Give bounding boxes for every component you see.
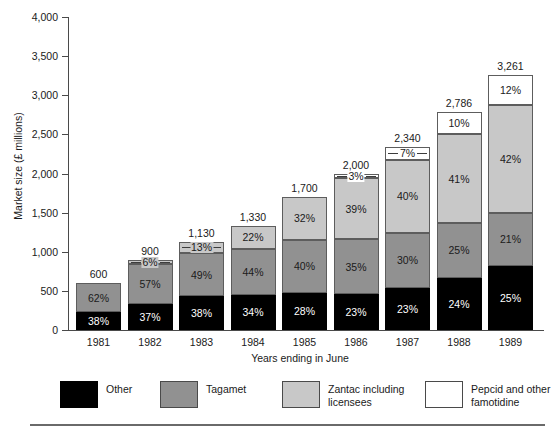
bar-segment-percent-label: 22% [232, 232, 275, 243]
y-axis-tick [62, 95, 68, 96]
label-leader-line [417, 153, 427, 154]
bar-segment-percent-label: 24% [438, 299, 481, 310]
bar-segment[interactable]: 21% [488, 213, 533, 267]
y-axis-tick-label-wrap: 500 [0, 286, 58, 296]
bar-total-label: 600 [69, 269, 129, 280]
bar-segment[interactable]: 7% [385, 147, 430, 160]
stacked-bar[interactable]: 38%49%13% [179, 242, 224, 330]
bar-segment[interactable]: 37% [128, 304, 173, 330]
bar-segment[interactable]: 49% [179, 253, 224, 296]
bar-segment[interactable]: 40% [282, 240, 327, 293]
y-axis-tick-label: 500 [14, 286, 58, 296]
y-axis-tick [62, 134, 68, 135]
bar-segment[interactable]: 12% [488, 75, 533, 106]
bar-segment[interactable]: 38% [76, 312, 121, 330]
bar-segment-percent-label: 23% [386, 304, 429, 315]
bar-segment[interactable]: 30% [385, 233, 430, 288]
bar-total-label: 1,330 [223, 212, 283, 223]
bar-segment[interactable]: 28% [282, 293, 327, 330]
bar-segment-percent-label: 44% [232, 267, 275, 278]
y-axis-tick-label-wrap: 2,000 [0, 169, 58, 179]
stacked-bar-chart: 05001,0001,5002,0002,5003,0003,5004,000 … [0, 0, 553, 438]
y-axis-tick [62, 330, 68, 331]
bar-segment[interactable]: 35% [334, 239, 379, 294]
y-axis-tick-label: 0 [14, 325, 58, 335]
bar-total-label: 2,000 [326, 160, 386, 171]
y-axis-tick [62, 174, 68, 175]
stacked-bar[interactable]: 37%57%6% [128, 260, 173, 330]
legend-label: Zantac including licensees [328, 383, 438, 408]
bar-segment-percent-label: 3% [347, 171, 364, 182]
bar-segment[interactable]: 25% [488, 266, 533, 330]
y-axis-tick-label-wrap: 0 [0, 325, 58, 335]
legend-swatch [60, 381, 98, 408]
bar-segment-percent-label: 6% [141, 257, 158, 268]
stacked-bar[interactable]: 28%40%32% [282, 197, 327, 330]
bar-segment[interactable]: 25% [437, 223, 482, 278]
y-axis-tick-label-wrap: 3,500 [0, 51, 58, 61]
stacked-bar[interactable]: 23%35%39%3% [334, 174, 379, 331]
bar-total-label: 1,130 [172, 228, 232, 239]
label-leader-line [366, 176, 376, 177]
bar-segment[interactable]: 24% [437, 278, 482, 330]
bar-segment[interactable]: 13% [179, 242, 224, 253]
bar-segment[interactable]: 23% [385, 288, 430, 330]
bar-segment[interactable]: 32% [282, 197, 327, 240]
bar-segment[interactable]: 10% [437, 112, 482, 134]
bar-segment-percent-label: 28% [283, 306, 326, 317]
x-axis-category-label: 1989 [481, 336, 541, 348]
bar-segment-percent-label: 30% [386, 255, 429, 266]
y-axis-tick [62, 252, 68, 253]
stacked-bar[interactable]: 38%62% [76, 283, 121, 330]
bar-segment[interactable]: 62% [76, 283, 121, 312]
y-axis-tick [62, 291, 68, 292]
bar-segment-percent-label: 49% [180, 270, 223, 281]
bar-segment-percent-label: 21% [489, 234, 532, 245]
stacked-bar[interactable]: 34%44%22% [231, 226, 276, 330]
bar-segment[interactable]: 41% [437, 134, 482, 223]
stacked-bar[interactable]: 25%21%42%12% [488, 75, 533, 330]
label-leader-line [160, 262, 170, 263]
legend-swatch [425, 381, 463, 408]
bar-segment[interactable]: 44% [231, 249, 276, 295]
bar-segment-percent-label: 42% [489, 154, 532, 165]
bottom-rule [30, 424, 545, 426]
bar-segment-percent-label: 41% [438, 174, 481, 185]
bar-segment[interactable]: 34% [231, 295, 276, 330]
x-axis-line [68, 330, 544, 331]
bar-total-label: 2,786 [429, 98, 489, 109]
y-axis-tick-label-wrap: 3,000 [0, 90, 58, 100]
chart-legend: OtherTagametZantac including licenseesPe… [0, 378, 553, 422]
bar-segment-percent-label: 62% [77, 293, 120, 304]
bar-segment[interactable]: 3% [334, 174, 379, 179]
bar-segment-percent-label: 32% [283, 213, 326, 224]
bar-segment[interactable]: 57% [128, 264, 173, 304]
bar-segment[interactable]: 40% [385, 160, 430, 233]
bar-segment[interactable]: 39% [334, 178, 379, 239]
label-leader-line [388, 153, 398, 154]
bar-total-label: 1,700 [275, 183, 335, 194]
y-axis-tick [62, 213, 68, 214]
bar-segment-percent-label: 25% [489, 293, 532, 304]
bar-segment[interactable]: 42% [488, 105, 533, 212]
y-axis-title: Market size (£ millions) [12, 76, 24, 256]
bar-segment[interactable]: 38% [179, 296, 224, 330]
bar-total-label: 3,261 [481, 61, 541, 72]
bar-segment-percent-label: 35% [335, 262, 378, 273]
stacked-bar[interactable]: 23%30%40%7% [385, 147, 430, 330]
bar-segment[interactable]: 6% [128, 260, 173, 264]
bar-segment-percent-label: 57% [129, 279, 172, 290]
legend-swatch [282, 381, 320, 408]
bar-segment-percent-label: 37% [129, 312, 172, 323]
bar-segment-percent-label: 38% [180, 308, 223, 319]
bar-segment-percent-label: 12% [489, 85, 532, 96]
stacked-bar[interactable]: 24%25%41%10% [437, 112, 482, 330]
y-axis-line [68, 17, 69, 331]
bar-segment[interactable]: 23% [334, 294, 379, 330]
bar-segment-percent-label: 23% [335, 307, 378, 318]
legend-label: Pepcid and other famotidine [471, 383, 553, 408]
bar-segment-percent-label: 10% [438, 118, 481, 129]
bar-segment[interactable]: 22% [231, 226, 276, 249]
y-axis-tick-label-wrap: 1,500 [0, 208, 58, 218]
bar-segment-percent-label: 39% [335, 204, 378, 215]
